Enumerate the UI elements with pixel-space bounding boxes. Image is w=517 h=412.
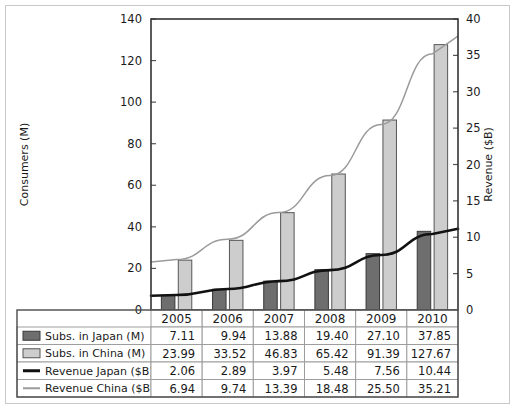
table-value: 7.56 (374, 364, 400, 378)
bar-japan-2005 (161, 295, 175, 310)
y2-axis-tick-label: 5 (466, 267, 473, 281)
table-value: 2.89 (221, 364, 247, 378)
bar-china-2006 (229, 240, 243, 310)
y2-axis-tick-label: 25 (466, 121, 481, 135)
table-value: 25.50 (367, 382, 400, 396)
table-value: 13.88 (265, 329, 298, 343)
bar-china-2010 (434, 45, 448, 310)
legend-label-3: Revenue Japan ($B) (45, 365, 154, 378)
y2-axis-tick-label: 0 (466, 303, 473, 317)
bar-japan-2008 (315, 270, 329, 310)
table-value: 5.48 (323, 364, 349, 378)
chart-figure: 0204060801001201400510152025303540Consum… (0, 0, 517, 412)
y2-axis-tick-label: 35 (466, 48, 481, 62)
bar-dark-swatch (23, 331, 40, 340)
table-value: 6.94 (170, 382, 196, 396)
table-value: 46.83 (265, 347, 298, 361)
table-value: 18.48 (316, 382, 349, 396)
line-revenue-japan (151, 229, 458, 296)
table-value: 65.42 (316, 347, 349, 361)
y-axis-tick-label: 40 (127, 220, 142, 234)
table-value: 9.74 (221, 382, 247, 396)
legend-label-2: Subs. in China (M) (45, 347, 145, 360)
category-label-2007: 2007 (264, 312, 295, 326)
chart-screenshot: 0204060801001201400510152025303540Consum… (0, 0, 517, 412)
table-value: 10.44 (418, 364, 451, 378)
table-value: 27.10 (367, 329, 400, 343)
category-label-2008: 2008 (315, 312, 346, 326)
bar-japan-2007 (264, 281, 278, 310)
bar-china-2008 (332, 174, 346, 310)
category-label-2010: 2010 (417, 312, 448, 326)
y-axis-tick-label: 140 (120, 12, 142, 26)
table-value: 91.39 (367, 347, 400, 361)
bar-japan-2009 (366, 254, 380, 310)
table-value: 35.21 (418, 382, 451, 396)
table-value: 19.40 (316, 329, 349, 343)
bar-japan-2010 (417, 231, 431, 310)
y2-axis-tick-label: 10 (466, 230, 481, 244)
y-axis-tick-label: 120 (120, 54, 142, 68)
y-axis-tick-label: 20 (127, 261, 142, 275)
table-value: 3.97 (272, 364, 298, 378)
bar-china-2005 (178, 260, 192, 310)
line-revenue-china (151, 36, 458, 262)
table-value: 13.39 (265, 382, 298, 396)
bar-japan-2006 (213, 289, 227, 310)
table-value: 2.06 (170, 364, 196, 378)
y2-axis-tick-label: 40 (466, 12, 481, 26)
right-axis-title: Revenue ($B) (482, 127, 495, 202)
legend-label-4: Revenue China ($B) (45, 382, 154, 395)
bar-china-2009 (383, 120, 397, 310)
y2-axis-tick-label: 15 (466, 194, 481, 208)
table-value: 7.11 (170, 329, 196, 343)
left-axis-title: Consumers (M) (18, 123, 31, 206)
table-value: 33.52 (213, 347, 246, 361)
table-value: 9.94 (221, 329, 247, 343)
category-label-2006: 2006 (212, 312, 243, 326)
bar-light-swatch (23, 349, 40, 358)
y-axis-tick-label: 80 (127, 137, 142, 151)
bar-china-2007 (281, 213, 295, 310)
table-value: 127.67 (411, 347, 451, 361)
y-axis-tick-label: 60 (127, 178, 142, 192)
category-label-2005: 2005 (161, 312, 192, 326)
y2-axis-tick-label: 20 (466, 158, 481, 172)
table-value: 23.99 (162, 347, 195, 361)
y-axis-tick-label: 100 (120, 95, 142, 109)
table-value: 37.85 (418, 329, 451, 343)
category-label-2009: 2009 (366, 312, 397, 326)
y2-axis-tick-label: 30 (466, 85, 481, 99)
legend-label-1: Subs. in Japan (M) (45, 330, 144, 343)
plot-frame (151, 19, 458, 310)
